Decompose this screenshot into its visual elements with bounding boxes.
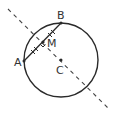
- label-b: B: [57, 9, 65, 22]
- label-c: C: [56, 64, 64, 77]
- right-angle-marker: [41, 45, 46, 48]
- label-a: A: [14, 56, 22, 69]
- point-c: [60, 59, 63, 62]
- label-m: M: [47, 37, 57, 50]
- geometry-diagram: A B M C: [0, 0, 115, 113]
- diagram-svg: A B M C: [0, 0, 115, 113]
- point-m: [41, 40, 44, 43]
- perpendicular-bisector-line: [8, 9, 108, 108]
- point-a: [23, 60, 26, 63]
